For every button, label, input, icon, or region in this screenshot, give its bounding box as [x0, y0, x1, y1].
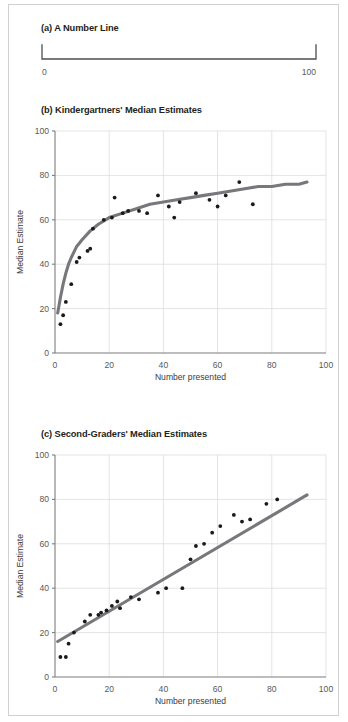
data-point: [224, 193, 228, 197]
x-tick-label: 40: [159, 684, 169, 694]
data-point: [88, 613, 92, 617]
panel-a-title: (a) A Number Line: [41, 23, 119, 33]
x-tick-label: 60: [213, 360, 223, 370]
data-point: [121, 211, 125, 215]
number-line-path: [42, 45, 316, 59]
x-tick-label: 100: [319, 684, 334, 694]
data-point: [189, 557, 193, 561]
data-point: [59, 322, 63, 326]
data-point: [178, 200, 182, 204]
data-point: [129, 595, 133, 599]
data-point: [91, 227, 95, 231]
data-point: [126, 209, 130, 213]
data-point: [59, 655, 63, 659]
data-point: [210, 531, 214, 535]
y-tick-label: 60: [39, 539, 49, 549]
data-point: [156, 591, 160, 595]
x-tick-label: 0: [53, 360, 58, 370]
x-tick-label: 20: [104, 360, 114, 370]
data-point: [232, 513, 236, 517]
data-point: [164, 586, 168, 590]
data-point: [64, 655, 68, 659]
data-point: [208, 198, 212, 202]
panel-b-kindergartners: (b) Kindergartners' Median Estimates 020…: [9, 101, 340, 401]
data-point: [145, 211, 149, 215]
y-tick-label: 40: [39, 259, 49, 269]
data-point: [77, 256, 81, 260]
data-point: [156, 193, 160, 197]
data-point: [115, 600, 119, 604]
y-tick-label: 80: [39, 494, 49, 504]
y-tick-label: 60: [39, 215, 49, 225]
x-axis-title: Number presented: [155, 372, 226, 382]
trend-line: [58, 182, 307, 313]
data-point: [118, 606, 122, 610]
data-points-group: [59, 498, 280, 659]
data-point: [137, 597, 141, 601]
figure-frame: (a) A Number Line 0 100 (b) Kindergartne…: [8, 4, 339, 716]
data-point: [75, 260, 79, 264]
y-tick-label: 20: [39, 304, 49, 314]
data-point: [83, 620, 87, 624]
panel-a-number-line: (a) A Number Line 0 100: [9, 5, 340, 95]
data-point: [194, 191, 198, 195]
data-point: [102, 218, 106, 222]
data-point: [110, 216, 114, 220]
panel-b-chart: 020406080100020406080100Number presented…: [9, 117, 340, 407]
grid-group: [55, 131, 326, 353]
number-line-graphic: 0 100: [9, 37, 340, 97]
data-point: [69, 282, 73, 286]
data-point: [218, 524, 222, 528]
y-tick-label: 20: [39, 628, 49, 638]
data-point: [194, 544, 198, 548]
data-point: [275, 498, 279, 502]
data-point: [88, 247, 92, 251]
y-tick-label: 80: [39, 170, 49, 180]
x-tick-label: 80: [267, 684, 277, 694]
data-point: [216, 205, 220, 209]
data-point: [105, 609, 109, 613]
data-point: [61, 313, 65, 317]
data-point: [237, 180, 241, 184]
data-point: [99, 611, 103, 615]
y-tick-label: 100: [35, 126, 50, 136]
number-line-right-label: 100: [302, 67, 317, 77]
panel-c-chart: 020406080100020406080100Number presented…: [9, 441, 340, 722]
panel-c-second-graders: (c) Second-Graders' Median Estimates 020…: [9, 417, 340, 717]
data-point: [167, 205, 171, 209]
x-tick-label: 60: [213, 684, 223, 694]
panel-c-title: (c) Second-Graders' Median Estimates: [41, 429, 207, 439]
panel-b-title: (b) Kindergartners' Median Estimates: [41, 105, 202, 115]
data-point: [72, 631, 76, 635]
x-tick-label: 80: [267, 360, 277, 370]
data-point: [251, 202, 255, 206]
data-point: [248, 517, 252, 521]
x-tick-label: 40: [159, 360, 169, 370]
x-axis-title: Number presented: [155, 696, 226, 706]
data-point: [67, 642, 71, 646]
y-tick-label: 100: [35, 450, 50, 460]
data-point: [180, 586, 184, 590]
data-point: [64, 300, 68, 304]
y-tick-label: 0: [44, 672, 49, 682]
y-axis-title: Median Estimate: [15, 210, 25, 274]
x-tick-label: 20: [104, 684, 114, 694]
trend-line: [58, 495, 307, 642]
data-point: [202, 542, 206, 546]
data-point: [113, 196, 117, 200]
number-line-left-label: 0: [42, 67, 47, 77]
data-point: [110, 604, 114, 608]
data-point: [137, 209, 141, 213]
y-tick-label: 0: [44, 348, 49, 358]
data-point: [172, 216, 176, 220]
y-axis-title: Median Estimate: [15, 534, 25, 598]
data-point: [264, 502, 268, 506]
x-tick-label: 100: [319, 360, 334, 370]
x-tick-label: 0: [53, 684, 58, 694]
data-point: [240, 520, 244, 524]
grid-group: [55, 455, 326, 677]
y-tick-label: 40: [39, 583, 49, 593]
